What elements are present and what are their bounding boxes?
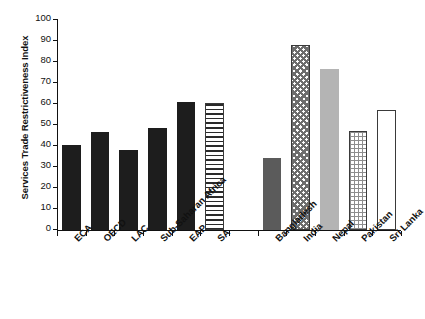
bar-bangladesh (263, 158, 282, 230)
y-tick-label: 50 (27, 117, 51, 128)
bar-oecd (91, 132, 110, 230)
x-axis-labels: ECAOECDLACSub-Saharan AfricaEAPSABanglad… (57, 236, 401, 318)
bar-sub-saharan-africa (148, 128, 167, 230)
y-tick-mark (53, 19, 58, 20)
y-tick-label: 70 (27, 75, 51, 86)
y-tick-mark (53, 229, 58, 230)
y-tick-label: 100 (27, 12, 51, 23)
y-axis-line (57, 20, 58, 231)
y-tick-label: 10 (27, 201, 51, 212)
y-tick-mark (53, 61, 58, 62)
bar-nepal (320, 69, 339, 230)
y-tick-label: 0 (27, 222, 51, 233)
bar-pakistan (349, 131, 368, 230)
plot-area: 1009080706050403020100 (57, 20, 401, 230)
y-tick-label: 20 (27, 180, 51, 191)
y-tick-mark (53, 82, 58, 83)
y-tick-label: 90 (27, 33, 51, 44)
y-tick-mark (53, 187, 58, 188)
y-tick-mark (53, 103, 58, 104)
bar-eca (62, 145, 81, 230)
y-tick-label: 80 (27, 54, 51, 65)
y-tick-label: 60 (27, 96, 51, 107)
y-tick-label: 40 (27, 138, 51, 149)
y-tick-mark (53, 166, 58, 167)
y-tick-mark (53, 145, 58, 146)
bar-sa (205, 103, 224, 230)
y-tick-mark (53, 40, 58, 41)
y-tick-label: 30 (27, 159, 51, 170)
y-tick-mark (53, 208, 58, 209)
y-tick-mark (53, 124, 58, 125)
